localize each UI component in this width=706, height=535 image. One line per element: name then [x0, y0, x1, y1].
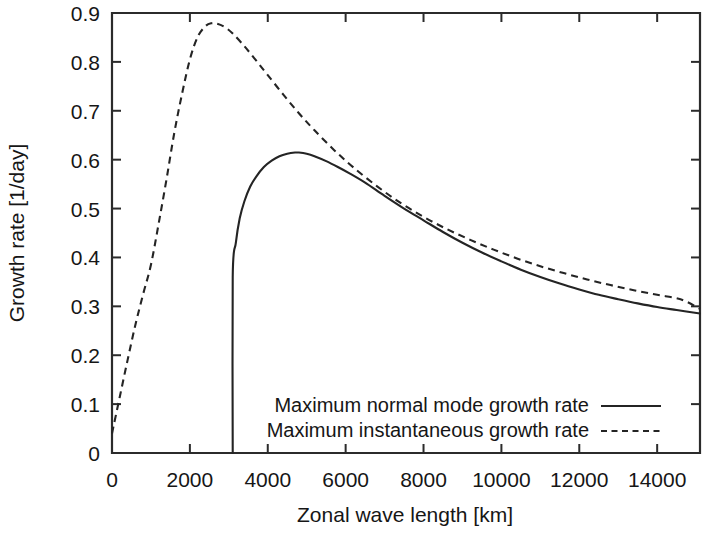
y-tick-label: 0.8 [71, 51, 100, 74]
y-tick-label: 0.2 [71, 344, 100, 367]
y-tick-label: 0.1 [71, 393, 100, 416]
x-tick-label: 0 [106, 468, 118, 491]
x-axis-title: Zonal wave length [km] [297, 503, 513, 526]
y-tick-label: 0.6 [71, 149, 100, 172]
plot-axes [112, 13, 700, 453]
series-line-2 [112, 23, 700, 433]
y-tick-label: 0.4 [71, 246, 101, 269]
y-tick-label: 0.9 [71, 2, 100, 25]
chart-legend: Maximum normal mode growth rateMaximum i… [267, 394, 661, 441]
y-tick-label: 0.7 [71, 100, 100, 123]
y-tick-label: 0.5 [71, 198, 100, 221]
growth-rate-chart: 02000400060008000100001200014000 00.10.2… [0, 0, 706, 535]
legend-label-2: Maximum instantaneous growth rate [267, 419, 589, 441]
y-axis-title: Growth rate [1/day] [5, 144, 28, 323]
x-tick-label: 8000 [400, 468, 447, 491]
x-tick-label: 10000 [472, 468, 530, 491]
x-tick-label: 4000 [244, 468, 291, 491]
x-tick-label: 2000 [167, 468, 214, 491]
x-tick-label: 6000 [322, 468, 369, 491]
y-tick-label: 0.3 [71, 295, 100, 318]
figure-container: 02000400060008000100001200014000 00.10.2… [0, 0, 706, 535]
x-tick-label: 14000 [628, 468, 686, 491]
y-tick-label: 0 [88, 442, 100, 465]
axis-frame [112, 13, 700, 453]
data-series-group [112, 23, 700, 453]
x-tick-label: 12000 [550, 468, 608, 491]
legend-label-1: Maximum normal mode growth rate [274, 394, 589, 416]
